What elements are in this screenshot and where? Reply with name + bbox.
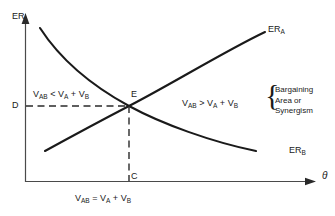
ineq-left-plus: + <box>71 89 76 99</box>
ineq-right-v3: V <box>228 98 234 108</box>
ineq-left-operator: < <box>50 89 55 99</box>
ineq-left-v3-sub: B <box>85 93 89 100</box>
ineq-left-v2-sub: A <box>64 93 68 100</box>
point-d-label: D <box>12 101 19 110</box>
x-axis-label: θ <box>322 171 327 182</box>
curve-b-label: ERB <box>289 146 306 155</box>
inequality-bottom-axis: VAB = VA + VB <box>75 194 131 203</box>
curve-a-subscript: A <box>281 28 285 35</box>
point-c-label: C <box>131 172 138 181</box>
x-axis <box>25 178 316 185</box>
y-axis-label: ER <box>12 12 25 21</box>
economics-chart-figure: ER θ ERA ERB E C D VAB < VA + VB VAB > V… <box>0 0 335 216</box>
point-e-label: E <box>131 90 137 99</box>
bargaining-note-line-1: Bargaining <box>275 85 313 96</box>
ineq-right-operator: > <box>199 98 204 108</box>
inequality-left-region: VAB < VA + VB <box>33 90 89 99</box>
y-axis <box>22 13 30 182</box>
ineq-bottom-plus: + <box>113 193 118 203</box>
ineq-bottom-v2-sub: A <box>106 197 110 204</box>
ineq-right-v3-sub: B <box>234 102 238 109</box>
ineq-bottom-v1-sub: AB <box>81 197 90 204</box>
ineq-left-v3: V <box>79 89 85 99</box>
bargaining-note-line-2: Area or <box>275 96 313 107</box>
ineq-bottom-v3: V <box>121 193 127 203</box>
ineq-right-v1-sub: AB <box>188 102 197 109</box>
curve-b-base: ER <box>289 145 302 155</box>
inequality-right-region: VAB > VA + VB <box>182 99 238 108</box>
ineq-right-v2-sub: A <box>213 102 217 109</box>
ineq-bottom-v3-sub: B <box>127 197 131 204</box>
bargaining-note-line-3: Synergism <box>275 106 313 117</box>
curve-a-base: ER <box>268 24 281 34</box>
curve-a-label: ERA <box>268 25 285 34</box>
bargaining-area-note: Bargaining Area or Synergism <box>275 85 313 117</box>
ineq-bottom-operator: = <box>92 193 97 203</box>
ineq-left-v1-sub: AB <box>39 93 48 100</box>
curve-b-subscript: B <box>302 149 306 156</box>
ineq-right-plus: + <box>220 98 225 108</box>
